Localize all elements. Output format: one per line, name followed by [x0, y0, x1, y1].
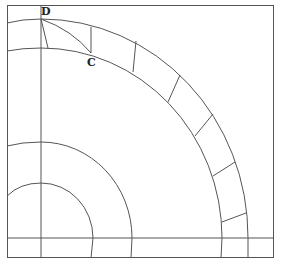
band-divider [222, 213, 246, 222]
label-c: C [87, 56, 96, 69]
label-d: D [41, 5, 51, 18]
band-divider [41, 19, 48, 48]
mid-arc [7, 142, 132, 258]
frame-border [8, 6, 274, 258]
band-divider [195, 114, 213, 136]
small-arc [7, 183, 93, 258]
arch-diagram: D C [0, 0, 282, 261]
band-divider [213, 162, 235, 176]
band-inner-arc [7, 48, 222, 258]
band-divider [133, 41, 136, 72]
band-divider [168, 75, 180, 102]
band-outer-arc [7, 19, 248, 258]
